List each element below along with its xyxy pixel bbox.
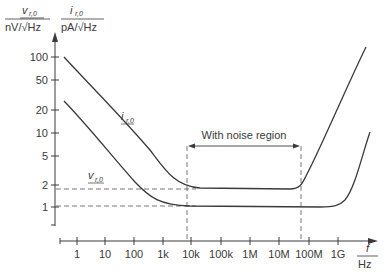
svg-text:pA/√Hz: pA/√Hz: [61, 21, 97, 33]
x-tick-label: 1G: [331, 248, 346, 260]
svg-text:i: i: [70, 4, 73, 16]
y-axis-title-right: i r,0 pA/√Hz: [61, 4, 104, 33]
x-axis-title: f Hz: [357, 242, 378, 270]
curve-label-i: i r,0: [121, 110, 134, 124]
y-axis: 100502010521: [30, 32, 59, 226]
curves: [64, 47, 370, 207]
x-tick-label: 1M: [242, 248, 257, 260]
x-tick-label: 10: [99, 248, 111, 260]
x-axis: 1101001k10k100k1M10M100M1G: [60, 237, 378, 260]
y-tick-label: 100: [30, 51, 48, 63]
svg-text:With noise region: With noise region: [202, 129, 287, 141]
svg-text:f: f: [366, 242, 370, 254]
svg-text:nV/√Hz: nV/√Hz: [5, 21, 41, 33]
x-tick-label: 10k: [182, 248, 200, 260]
noise-region-annotation: With noise region: [188, 129, 300, 149]
svg-text:v: v: [88, 169, 95, 181]
x-tick-label: 100k: [209, 248, 233, 260]
curve-label-v: v r,0: [88, 169, 104, 183]
x-tick-label: 10M: [268, 248, 289, 260]
y-tick-label: 20: [36, 104, 48, 116]
arrow-right-icon: [293, 144, 300, 149]
x-tick-label: 100M: [295, 248, 323, 260]
svg-text:r,0: r,0: [75, 10, 83, 17]
y-axis-title-left: v r,0 nV/√Hz: [5, 4, 50, 33]
svg-text:r,0: r,0: [126, 117, 134, 124]
arrow-left-icon: [188, 144, 195, 149]
curve-i-r0: [64, 47, 366, 189]
x-tick-label: 100: [125, 248, 143, 260]
svg-text:Hz: Hz: [358, 258, 371, 270]
x-tick-label: 1k: [157, 248, 169, 260]
svg-text:v: v: [22, 4, 29, 16]
noise-chart: 100502010521 1101001k10k100k1M10M100M1G …: [0, 0, 388, 276]
y-tick-label: 5: [42, 150, 48, 162]
svg-text:r,0: r,0: [29, 10, 37, 17]
svg-text:r,0: r,0: [95, 176, 103, 183]
y-tick-label: 10: [36, 127, 48, 139]
reference-lines: [56, 146, 301, 241]
x-tick-label: 1: [74, 248, 80, 260]
y-tick-label: 2: [42, 179, 48, 191]
y-tick-label: 50: [36, 74, 48, 86]
y-tick-label: 1: [42, 201, 48, 213]
curve-v-r0: [64, 101, 370, 207]
x-axis-arrow-icon: [368, 238, 378, 244]
y-axis-arrow-icon: [52, 32, 58, 42]
